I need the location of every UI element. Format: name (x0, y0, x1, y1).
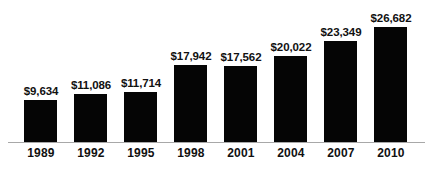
bar[interactable] (274, 56, 307, 142)
bar[interactable] (174, 65, 207, 142)
bar-value-label: $11,714 (107, 77, 175, 89)
bar-chart: $9,634 $11,086 $11,714 $17,942 $17,562 $… (0, 0, 435, 174)
plot-area: $9,634 $11,086 $11,714 $17,942 $17,562 $… (0, 0, 435, 142)
x-tick-label: 1998 (166, 146, 216, 160)
bar-group: $17,562 (216, 0, 266, 142)
x-tick-label: 2001 (216, 146, 266, 160)
bar-value-label: $26,682 (357, 12, 425, 24)
x-axis-line (8, 142, 425, 143)
bar-value-label: $23,349 (307, 26, 375, 38)
x-tick-label: 1992 (66, 146, 116, 160)
bar-group: $26,682 (366, 0, 416, 142)
bar[interactable] (224, 66, 257, 142)
bar[interactable] (374, 27, 407, 142)
bar-group: $11,086 (66, 0, 116, 142)
x-tick-label: 2004 (266, 146, 316, 160)
x-axis-tick-labels: 1989 1992 1995 1998 2001 2004 2007 2010 (0, 146, 435, 168)
bar-group: $9,634 (16, 0, 66, 142)
x-tick-label: 1995 (116, 146, 166, 160)
x-tick-label: 2007 (316, 146, 366, 160)
x-tick-label: 1989 (16, 146, 66, 160)
bar-value-label: $20,022 (257, 41, 325, 53)
bar-group: $11,714 (116, 0, 166, 142)
bar[interactable] (124, 92, 157, 142)
bar-group: $17,942 (166, 0, 216, 142)
bar[interactable] (324, 41, 357, 142)
bar[interactable] (74, 94, 107, 142)
bar-group: $20,022 (266, 0, 316, 142)
bar[interactable] (24, 100, 57, 142)
x-tick-label: 2010 (366, 146, 416, 160)
